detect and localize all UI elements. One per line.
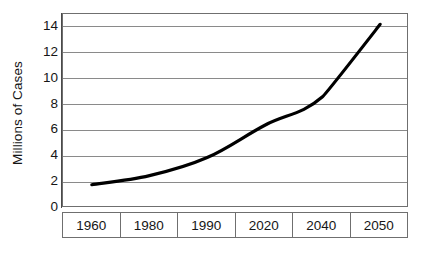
y-axis-tick-labels: 02468101214: [30, 0, 58, 257]
y-tick-label-6: 6: [30, 123, 58, 137]
y-tick-label-0: 0: [30, 200, 58, 214]
x-label-cell-1990: 1990: [178, 213, 236, 237]
y-tick-label-4: 4: [30, 149, 58, 163]
x-label-cell-2040: 2040: [293, 213, 351, 237]
x-label-cell-1960: 1960: [63, 213, 121, 237]
line-chart-figure: Millions of Cases 02468101214 1960198019…: [0, 0, 434, 257]
y-tick-label-2: 2: [30, 174, 58, 188]
y-tick-label-14: 14: [30, 19, 58, 33]
y-axis-title: Millions of Cases: [10, 38, 30, 188]
x-label-cell-2020: 2020: [236, 213, 294, 237]
series-line-cases: [63, 14, 409, 208]
series-path: [92, 24, 380, 184]
y-tick-label-10: 10: [30, 71, 58, 85]
plot-area: [62, 13, 408, 207]
x-axis-tick-labels: 196019801990202020402050: [62, 212, 408, 238]
x-label-cell-2050: 2050: [351, 213, 408, 237]
y-tick-label-12: 12: [30, 45, 58, 59]
y-tick-label-8: 8: [30, 97, 58, 111]
x-label-cell-1980: 1980: [121, 213, 179, 237]
